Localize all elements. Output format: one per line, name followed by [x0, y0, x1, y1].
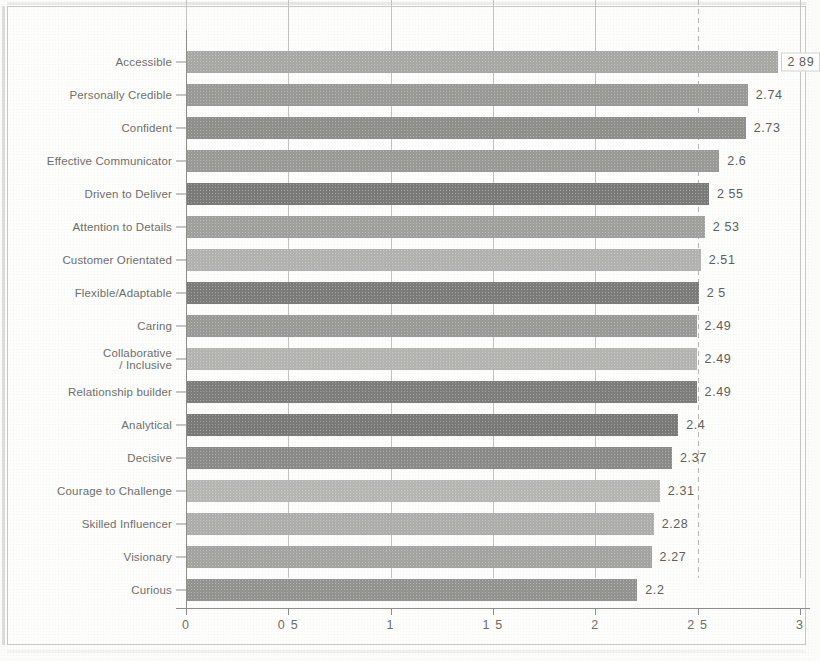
- x-axis-tick: [288, 608, 289, 615]
- bar[interactable]: [187, 414, 678, 436]
- bar[interactable]: [187, 546, 652, 568]
- bar-value-label: 2 89: [781, 52, 820, 71]
- bar-value-label: 2.28: [662, 517, 689, 531]
- bar-value-label: 2.2: [645, 583, 664, 597]
- bar-row[interactable]: Relationship builder2.49: [0, 375, 813, 408]
- category-label: Visionary: [124, 550, 172, 563]
- x-axis-tick-label: 2 5: [687, 618, 708, 632]
- y-axis-tick: [176, 94, 186, 95]
- bar-row[interactable]: Curious2.2: [0, 573, 813, 606]
- category-label: Skilled Influencer: [82, 517, 172, 530]
- bar-value-label: 2.49: [705, 385, 732, 399]
- bar-value-label: 2 53: [713, 220, 740, 234]
- y-axis-tick: [176, 325, 186, 326]
- bar-value-label: 2.4: [686, 418, 705, 432]
- category-label: Relationship builder: [68, 385, 172, 398]
- bar-value-label: 2 55: [717, 187, 744, 201]
- bar[interactable]: [187, 249, 701, 271]
- y-axis-tick: [176, 259, 186, 260]
- bar[interactable]: [187, 216, 705, 238]
- bar[interactable]: [187, 513, 654, 535]
- category-label: Personally Credible: [69, 88, 172, 101]
- y-axis-tick: [176, 589, 186, 590]
- bar-value-label: 2.31: [668, 484, 695, 498]
- bar-value-label: 2.51: [709, 253, 736, 267]
- category-label: Collaborative / Inclusive: [103, 346, 172, 371]
- bar-row[interactable]: Customer Orientated2.51: [0, 243, 813, 276]
- y-axis-tick: [176, 193, 186, 194]
- bar-value-label: 2.73: [754, 121, 781, 135]
- bar-row[interactable]: Personally Credible2.74: [0, 78, 813, 111]
- bar-value-label: 2.27: [660, 550, 687, 564]
- y-axis-tick: [176, 457, 186, 458]
- category-label: Effective Communicator: [47, 154, 172, 167]
- y-axis-tick: [176, 127, 186, 128]
- bar-row[interactable]: Effective Communicator2.6: [0, 144, 813, 177]
- y-axis-tick: [176, 160, 186, 161]
- bar-value-label: 2.74: [756, 88, 783, 102]
- y-axis-tick: [176, 61, 186, 62]
- y-axis-tick: [176, 556, 186, 557]
- bar[interactable]: [187, 579, 637, 601]
- bar[interactable]: [187, 117, 746, 139]
- bar-row[interactable]: Driven to Deliver2 55: [0, 177, 813, 210]
- category-label: Decisive: [127, 451, 172, 464]
- bar[interactable]: [187, 348, 697, 370]
- x-axis-tick: [698, 608, 699, 615]
- bar[interactable]: [187, 447, 672, 469]
- bar-row[interactable]: Analytical2.4: [0, 408, 813, 441]
- y-axis-tick: [176, 292, 186, 293]
- bar-value-label: 2.37: [680, 451, 707, 465]
- y-axis-tick: [176, 424, 186, 425]
- bar-row[interactable]: Skilled Influencer2.28: [0, 507, 813, 540]
- bar[interactable]: [187, 480, 660, 502]
- category-label: Confident: [121, 121, 172, 134]
- category-label: Customer Orientated: [62, 253, 172, 266]
- x-axis-tick: [391, 608, 392, 615]
- bar-row[interactable]: Caring2.49: [0, 309, 813, 342]
- x-axis-tick-label: 3: [796, 618, 804, 632]
- bar[interactable]: [187, 282, 699, 304]
- category-label: Curious: [131, 583, 172, 596]
- x-axis-tick: [186, 608, 187, 615]
- bar[interactable]: [187, 381, 697, 403]
- y-axis-tick: [176, 226, 186, 227]
- bar[interactable]: [187, 51, 778, 73]
- category-label: Accessible: [116, 55, 172, 68]
- bar-row[interactable]: Flexible/Adaptable2 5: [0, 276, 813, 309]
- bar[interactable]: [187, 84, 748, 106]
- y-axis-tick: [176, 490, 186, 491]
- y-axis-tick: [176, 523, 186, 524]
- bar-row[interactable]: Attention to Details2 53: [0, 210, 813, 243]
- bar-row[interactable]: Decisive2.37: [0, 441, 813, 474]
- category-label: Attention to Details: [72, 220, 172, 233]
- bar-row[interactable]: Visionary2.27: [0, 540, 813, 573]
- y-axis-tick: [176, 391, 186, 392]
- x-axis-tick: [595, 608, 596, 615]
- y-axis-tick: [176, 358, 186, 359]
- bar[interactable]: [187, 183, 709, 205]
- bar-row[interactable]: Confident2.73: [0, 111, 813, 144]
- category-label: Analytical: [121, 418, 172, 431]
- x-axis-tick-label: 1: [387, 618, 395, 632]
- category-label: Caring: [137, 319, 172, 332]
- bar-value-label: 2.49: [705, 319, 732, 333]
- bar-value-label: 2.49: [705, 352, 732, 366]
- x-axis-tick-label: 2: [591, 618, 599, 632]
- bar[interactable]: [187, 315, 697, 337]
- category-label: Courage to Challenge: [57, 484, 172, 497]
- bar-row[interactable]: Courage to Challenge2.31: [0, 474, 813, 507]
- x-axis-tick-label: 1 5: [483, 618, 504, 632]
- bar[interactable]: [187, 150, 719, 172]
- bar-value-label: 2.6: [727, 154, 746, 168]
- bar-value-label: 2 5: [707, 286, 726, 300]
- bar-row[interactable]: Accessible2 89: [0, 45, 813, 78]
- category-label: Driven to Deliver: [84, 187, 172, 200]
- category-label: Flexible/Adaptable: [75, 286, 172, 299]
- bar-row[interactable]: Collaborative / Inclusive2.49: [0, 342, 813, 375]
- x-axis-tick-label: 0: [182, 618, 190, 632]
- x-axis-tick-label: 0 5: [278, 618, 299, 632]
- x-axis-tick: [800, 608, 801, 615]
